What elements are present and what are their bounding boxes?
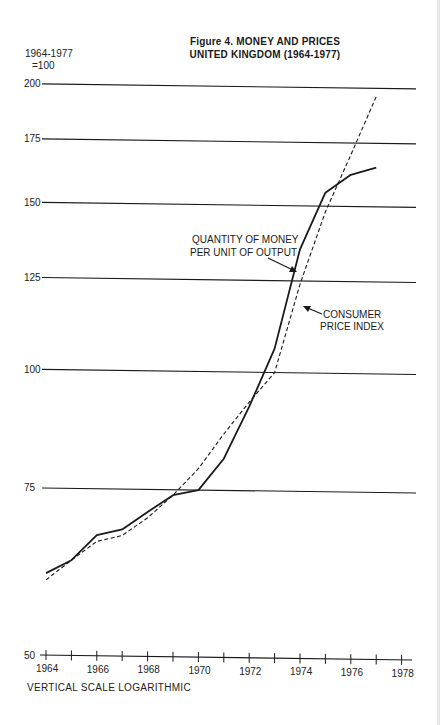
x-tick-label: 1972 bbox=[239, 666, 262, 677]
x-tick-label: 1976 bbox=[341, 667, 364, 678]
x-tick-label: 1970 bbox=[188, 665, 211, 676]
x-tick-label: 1966 bbox=[87, 664, 110, 675]
y-tick-label: 175 bbox=[24, 133, 41, 144]
y-tick-label: 200 bbox=[24, 78, 41, 89]
gridlines bbox=[42, 84, 416, 493]
money-label-line-2: PER UNIT OF OUTPUT bbox=[190, 247, 297, 258]
gridline bbox=[42, 277, 416, 282]
x-tick-label: 1968 bbox=[138, 664, 161, 675]
gridline bbox=[42, 202, 416, 207]
x-tick-label: 1978 bbox=[392, 668, 415, 679]
y-tick-label: 75 bbox=[24, 482, 36, 493]
gridline bbox=[42, 488, 416, 493]
cpi-label-line-1: CONSUMER bbox=[323, 309, 381, 320]
x-axis-line bbox=[40, 655, 412, 660]
scale-note: VERTICAL SCALE LOGARITHMIC bbox=[27, 682, 191, 693]
y-axis-labels: 5075100125150175200 bbox=[24, 78, 41, 660]
data-series bbox=[46, 97, 376, 580]
line-chart: 5075100125150175200 19641966196819701972… bbox=[0, 0, 440, 725]
money-label-line-1: QUANTITY OF MONEY bbox=[192, 234, 299, 245]
y-tick-label: 100 bbox=[24, 364, 41, 375]
gridline bbox=[42, 84, 416, 89]
annotations: QUANTITY OF MONEY PER UNIT OF OUTPUT CON… bbox=[190, 234, 384, 332]
y-tick-label: 50 bbox=[24, 650, 36, 661]
x-axis: 19641966196819701972197419761978 bbox=[36, 650, 414, 679]
cpi-line bbox=[46, 97, 376, 580]
cpi-label-line-2: PRICE INDEX bbox=[320, 321, 384, 332]
y-tick-label: 150 bbox=[24, 197, 41, 208]
gridline bbox=[42, 139, 416, 144]
y-tick-label: 125 bbox=[24, 272, 41, 283]
x-tick-label: 1974 bbox=[290, 666, 313, 677]
x-tick-label: 1964 bbox=[36, 663, 59, 674]
gridline bbox=[42, 369, 416, 374]
